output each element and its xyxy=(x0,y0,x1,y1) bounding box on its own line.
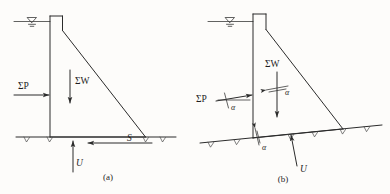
dam-body-a xyxy=(50,16,146,137)
label-alpha-thrust-b: α xyxy=(231,103,236,112)
base-angle-marker-b xyxy=(255,128,260,145)
force-arrow-u-b xyxy=(291,135,297,166)
label-alpha-base-b: α xyxy=(262,143,267,152)
caption-b: (b) xyxy=(278,174,289,184)
label-u-b: U xyxy=(300,164,308,174)
caption-a: (a) xyxy=(103,172,113,182)
label-u-a: U xyxy=(76,158,84,168)
dam-body-b xyxy=(253,14,343,138)
panel-b: ΣP α ΣW α α U (b) xyxy=(196,14,382,184)
label-sigma-w-a: ΣW xyxy=(75,76,90,86)
ground-line-b xyxy=(200,125,382,143)
label-alpha-weight-b: α xyxy=(285,88,290,97)
label-sigma-w-b: ΣW xyxy=(265,59,280,69)
dam-force-diagram-svg: ΣP ΣW U S (a) xyxy=(0,0,390,194)
figure-root: ΣP ΣW U S (a) xyxy=(0,0,390,194)
label-sigma-p-a: ΣP xyxy=(18,81,29,91)
panel-a: ΣP ΣW U S (a) xyxy=(14,16,176,182)
label-sigma-p-b: ΣP xyxy=(196,94,207,104)
ground-hatch-a xyxy=(24,137,166,142)
label-s-a: S xyxy=(127,133,132,143)
ground-hatch-b xyxy=(208,126,370,147)
